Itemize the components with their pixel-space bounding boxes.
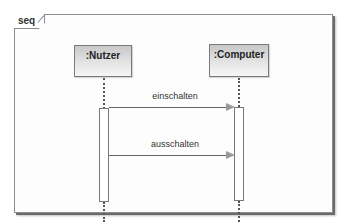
- activation-computer: [234, 107, 244, 201]
- lifeline-label: :Computer: [214, 49, 265, 60]
- sequence-frame: [14, 14, 333, 213]
- frame-label: seq: [18, 14, 35, 27]
- lifeline-label: :Nutzer: [86, 50, 120, 61]
- lifeline-computer-tail: [238, 201, 240, 222]
- message-line-ausschalten[interactable]: [109, 155, 226, 156]
- arrowhead-icon: [226, 151, 235, 159]
- activation-nutzer: [99, 108, 109, 202]
- message-label-ausschalten: ausschalten: [140, 139, 210, 149]
- lifeline-nutzer: [103, 78, 105, 109]
- message-line-einschalten[interactable]: [109, 107, 226, 108]
- lifeline-nutzer-tail: [103, 202, 105, 222]
- lifeline-head-computer[interactable]: :Computer: [209, 44, 269, 77]
- arrowhead-icon: [226, 103, 235, 111]
- lifeline-head-nutzer[interactable]: :Nutzer: [74, 45, 132, 77]
- lifeline-computer: [238, 78, 240, 107]
- message-label-einschalten: einschalten: [140, 91, 210, 101]
